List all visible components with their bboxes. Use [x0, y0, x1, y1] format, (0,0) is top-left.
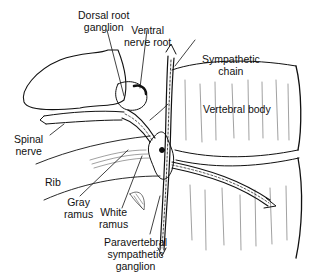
label-line: Vertebral body — [203, 103, 271, 115]
label-vertebral-body: Vertebral body — [203, 103, 271, 115]
label-line: Paravertebral — [104, 236, 167, 248]
label-gray-ramus: Gray ramus — [64, 196, 93, 220]
label-line: Sympathetic — [202, 53, 260, 65]
anatomy-diagram: Dorsal root ganglion Ventral nerve root … — [0, 0, 313, 277]
label-line: Gray — [64, 196, 93, 208]
label-sympathetic-chain: Sympathetic chain — [202, 53, 260, 77]
label-line: sympathetic — [104, 248, 167, 260]
label-line: Ventral — [124, 24, 171, 36]
rib-shape — [36, 136, 160, 210]
label-line: Rib — [45, 176, 61, 188]
transverse-process-shape — [23, 50, 147, 110]
spinal-nerve-shape — [40, 111, 124, 124]
label-line: White — [99, 206, 128, 218]
label-ventral-nerve-root: Ventral nerve root — [124, 24, 171, 48]
label-paravertebral-ganglion: Paravertebral sympathetic ganglion — [104, 236, 167, 272]
vertebral-body-shape — [172, 61, 302, 258]
label-line: Spinal — [14, 133, 43, 145]
label-line: ganglion — [104, 260, 167, 272]
label-line: ramus — [64, 208, 93, 220]
intercostal-nerve — [172, 162, 276, 208]
label-dorsal-root-ganglion: Dorsal root ganglion — [78, 9, 129, 33]
label-line: Dorsal root — [78, 9, 129, 21]
label-line: ramus — [99, 218, 128, 230]
label-line: nerve — [14, 145, 43, 157]
label-white-ramus: White ramus — [99, 206, 128, 230]
label-spinal-nerve: Spinal nerve — [14, 133, 43, 157]
label-line: ganglion — [78, 21, 129, 33]
label-line: chain — [202, 65, 260, 77]
label-rib: Rib — [45, 176, 61, 188]
label-line: nerve root — [124, 36, 171, 48]
